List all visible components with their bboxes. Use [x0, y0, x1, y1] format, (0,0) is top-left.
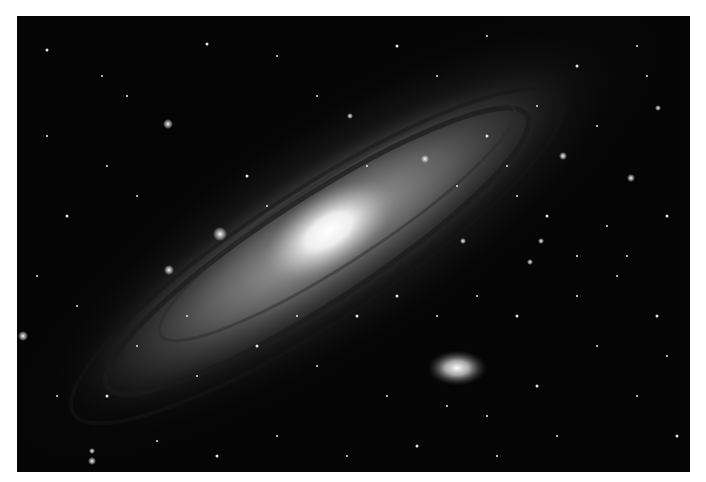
galaxy-photo [17, 16, 690, 472]
galaxy-illustration [17, 16, 690, 472]
